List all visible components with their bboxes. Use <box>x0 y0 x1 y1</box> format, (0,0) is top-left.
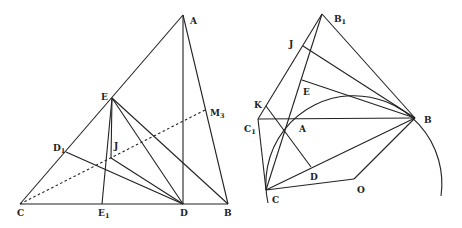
label-D1: D1 <box>53 143 65 155</box>
label-B: B <box>224 208 232 218</box>
label-M3: M3 <box>210 108 225 120</box>
label-C: C <box>272 195 279 205</box>
segment-b1-c <box>266 14 322 190</box>
label-D: D <box>180 208 188 218</box>
segment-c-b <box>266 118 415 190</box>
label-K: K <box>254 100 263 110</box>
label-A: A <box>189 16 198 26</box>
geometry-diagram: A E M3 J D1 C E1 D B B1 J E K C1 A B D O… <box>0 0 462 228</box>
segment-c-a <box>20 15 183 204</box>
segment-j-b <box>303 46 415 118</box>
label-D: D <box>310 172 318 182</box>
segment-j-d <box>111 158 183 204</box>
segment-o-b <box>354 118 415 179</box>
label-E: E <box>303 87 310 97</box>
label-O: O <box>357 185 365 195</box>
right-figure: B1 J E K C1 A B D O C <box>244 14 442 205</box>
label-B1: B1 <box>334 14 346 26</box>
segment-b1-c1 <box>258 14 322 119</box>
segment-a-b <box>183 15 228 204</box>
label-C1: C1 <box>244 124 256 136</box>
label-E1: E1 <box>98 208 109 220</box>
label-J: J <box>288 39 293 49</box>
label-A: A <box>298 124 307 134</box>
label-C: C <box>17 208 24 218</box>
segment-e-e1 <box>102 98 112 204</box>
segment-c1-c <box>258 119 266 190</box>
segment-c1-b <box>258 118 415 119</box>
label-B: B <box>424 115 432 125</box>
label-J: J <box>113 141 118 151</box>
label-E: E <box>101 92 108 102</box>
left-figure: A E M3 J D1 C E1 D B <box>17 15 232 220</box>
segment-k-d <box>266 106 311 167</box>
